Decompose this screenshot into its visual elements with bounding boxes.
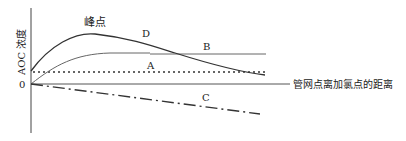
curve-a-line bbox=[31, 53, 150, 84]
x-axis-label: 管网点离加氯点的距离 bbox=[293, 78, 393, 90]
origin-label: 0 bbox=[19, 79, 25, 90]
curve-c-line bbox=[31, 84, 260, 114]
curve-c-label: C bbox=[202, 92, 210, 103]
curve-a-label: A bbox=[146, 60, 155, 71]
aoc-diagram: 峰点 D B A C 0 管网点离加氯点的距离 AOC 浓度 bbox=[0, 0, 406, 141]
peak-label: 峰点 bbox=[84, 16, 106, 29]
y-axis-label: AOC 浓度 bbox=[15, 29, 27, 76]
curve-b-label: B bbox=[203, 41, 210, 52]
curve-d-label: D bbox=[142, 28, 150, 39]
